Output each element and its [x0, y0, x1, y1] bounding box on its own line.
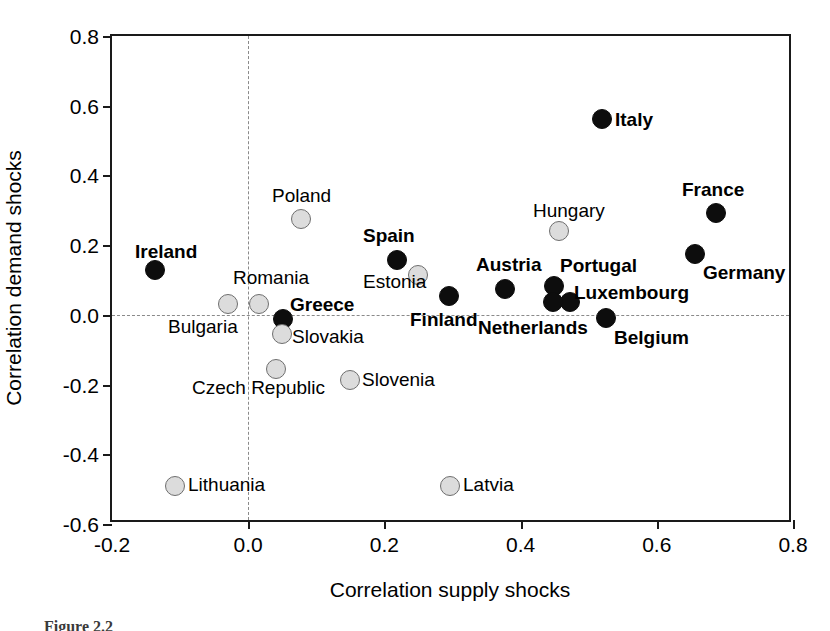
y-axis-tick [103, 454, 112, 456]
data-point-italy[interactable] [592, 109, 612, 129]
y-axis-tick [103, 175, 112, 177]
data-point-france[interactable] [706, 203, 726, 223]
data-point-lithuania[interactable] [165, 476, 185, 496]
data-point-romania[interactable] [249, 294, 269, 314]
y-axis-tick-label: 0.6 [70, 95, 99, 116]
data-label-austria: Austria [476, 255, 541, 274]
scatter-figure: 0.80.60.40.20.0-0.2-0.4-0.6-0.20.00.20.4… [0, 0, 830, 631]
data-label-hungary: Hungary [533, 201, 605, 220]
data-label-czech-republic: Czech Republic [192, 378, 325, 397]
data-label-italy: Italy [615, 110, 653, 129]
x-axis-tick [793, 520, 795, 529]
x-axis-tick-label: -0.2 [94, 534, 130, 555]
data-label-germany: Germany [703, 263, 785, 282]
data-label-portugal: Portugal [560, 256, 637, 275]
data-label-france: France [682, 180, 744, 199]
figure-caption: Figure 2.2 [44, 618, 113, 631]
data-point-austria[interactable] [495, 279, 515, 299]
data-label-netherlands: Netherlands [478, 318, 588, 337]
data-label-ireland: Ireland [135, 242, 197, 261]
data-point-slovakia[interactable] [272, 324, 292, 344]
data-point-hungary[interactable] [549, 221, 569, 241]
y-axis-tick-label: 0.8 [70, 26, 99, 47]
data-label-slovenia: Slovenia [362, 370, 435, 389]
y-axis-tick [103, 245, 112, 247]
y-axis-tick [103, 315, 112, 317]
data-point-slovenia[interactable] [340, 370, 360, 390]
y-axis-tick-label: 0.4 [70, 165, 99, 186]
data-point-germany[interactable] [685, 244, 705, 264]
data-point-czech-republic[interactable] [266, 359, 286, 379]
data-label-bulgaria: Bulgaria [168, 317, 238, 336]
y-axis-tick [103, 385, 112, 387]
data-label-lithuania: Lithuania [188, 475, 265, 494]
data-label-spain: Spain [363, 226, 415, 245]
data-label-slovakia: Slovakia [292, 327, 364, 346]
y-axis-tick-label: -0.2 [63, 374, 99, 395]
y-axis-tick-label: -0.6 [63, 514, 99, 535]
x-axis-tick-label: 0.0 [234, 534, 263, 555]
data-label-finland: Finland [410, 310, 478, 329]
data-label-greece: Greece [290, 295, 354, 314]
data-point-bulgaria[interactable] [218, 294, 238, 314]
y-axis-tick-label: 0.2 [70, 235, 99, 256]
x-axis-tick [521, 520, 523, 529]
x-axis-tick-label: 0.2 [370, 534, 399, 555]
x-axis-tick-label: 0.6 [642, 534, 671, 555]
data-label-romania: Romania [233, 268, 309, 287]
y-axis-tick-label: 0.0 [70, 304, 99, 325]
data-point-belgium[interactable] [596, 308, 616, 328]
x-axis-tick [657, 520, 659, 529]
data-point-latvia[interactable] [440, 476, 460, 496]
data-label-poland: Poland [272, 186, 331, 205]
y-axis-title: Correlation demand shocks [2, 150, 26, 406]
x-axis-tick [384, 520, 386, 529]
data-label-latvia: Latvia [463, 475, 514, 494]
x-axis-tick [248, 520, 250, 529]
data-point-finland[interactable] [439, 286, 459, 306]
y-axis-tick [103, 36, 112, 38]
plot-area: 0.80.60.40.20.0-0.2-0.4-0.6-0.20.00.20.4… [110, 34, 791, 522]
x-axis-tick-label: 0.8 [778, 534, 807, 555]
data-label-belgium: Belgium [614, 328, 689, 347]
data-point-poland[interactable] [291, 209, 311, 229]
y-axis-tick-label: -0.4 [63, 444, 99, 465]
x-axis-tick-label: 0.4 [506, 534, 535, 555]
y-axis-tick [103, 524, 112, 526]
data-label-estonia: Estonia [363, 272, 426, 291]
y-axis-tick [103, 106, 112, 108]
data-label-luxembourg: Luxembourg [574, 283, 689, 302]
data-point-ireland[interactable] [145, 260, 165, 280]
data-point-spain[interactable] [387, 250, 407, 270]
data-point-netherlands[interactable] [543, 292, 563, 312]
x-axis-title: Correlation supply shocks [330, 578, 570, 602]
